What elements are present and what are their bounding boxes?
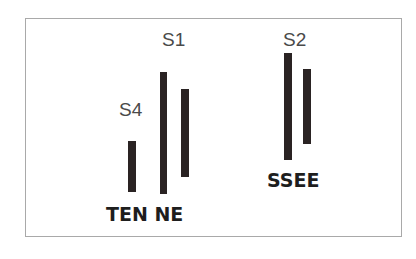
bar-s4 bbox=[128, 141, 136, 192]
label-ten-ne: TEN NE bbox=[106, 205, 183, 224]
label-ssee: SSEE bbox=[267, 171, 319, 190]
bar-s1-right bbox=[181, 89, 189, 177]
bar-s2-right bbox=[303, 69, 311, 144]
label-s4: S4 bbox=[119, 100, 142, 119]
label-s2: S2 bbox=[283, 30, 306, 49]
label-s1: S1 bbox=[162, 30, 185, 49]
bar-s2-left bbox=[284, 53, 292, 160]
diagram-frame bbox=[25, 18, 402, 237]
bar-s1-left bbox=[160, 72, 167, 194]
